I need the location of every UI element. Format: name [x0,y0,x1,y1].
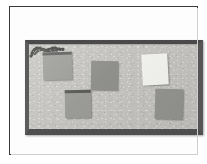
photograph [0,0,207,164]
sheet-center [91,61,119,90]
sheet-header-band [43,52,72,56]
cork-surface [29,45,198,129]
notice-board [25,40,203,135]
sheet-top-left [43,52,73,81]
sheet-bottom-right [155,89,184,120]
sheet-right-white [141,53,169,85]
sheet-header-band [65,90,91,93]
sheet-bottom-left [65,90,91,118]
plate-border [9,6,198,155]
